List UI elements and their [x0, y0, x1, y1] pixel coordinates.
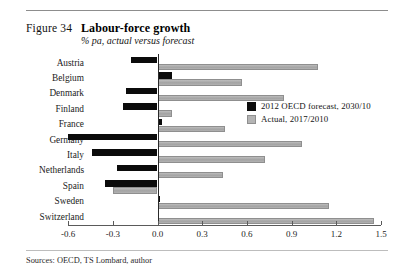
bar-netherlands-2012-oecd-forecast: [117, 165, 157, 171]
bar-austria-actual: [158, 64, 319, 70]
x-axis-line: [68, 225, 381, 226]
bar-denmark-2012-oecd-forecast: [126, 88, 157, 94]
category-label-sweden: Sweden: [12, 196, 84, 206]
x-tick-label-0: -0.6: [48, 229, 88, 239]
source-note: Sources: OECD, TS Lombard, author: [26, 256, 152, 265]
bar-finland-2012-oecd-forecast: [123, 103, 157, 109]
zero-axis-line: [158, 54, 159, 225]
x-tick-7: [381, 221, 382, 225]
x-tick-2: [158, 221, 159, 225]
x-tick-4: [247, 221, 248, 225]
x-tick-0: [68, 221, 69, 225]
chart-plot-area: AustriaBelgiumDenmarkFinlandFranceGerman…: [0, 0, 404, 276]
category-label-spain: Spain: [12, 181, 84, 191]
x-tick-label-5: 0.9: [272, 229, 312, 239]
x-tick-label-7: 1.5: [361, 229, 401, 239]
x-tick-3: [202, 221, 203, 225]
legend-item-actual: Actual, 2017/2010: [247, 114, 371, 124]
category-label-france: France: [12, 119, 84, 129]
legend-swatch-actual-icon: [247, 115, 256, 124]
bar-sweden-actual: [158, 203, 329, 209]
bar-italy-actual: [158, 156, 265, 162]
bar-france-actual: [158, 126, 225, 132]
figure-container: Figure 34 Labour-force growth % pa, actu…: [0, 0, 404, 276]
x-tick-1: [113, 221, 114, 225]
legend-label-actual: Actual, 2017/2010: [261, 114, 328, 124]
bar-spain-actual: [113, 187, 158, 193]
category-label-denmark: Denmark: [12, 88, 84, 98]
bar-germany-2012-oecd-forecast: [68, 134, 157, 140]
category-label-italy: Italy: [12, 150, 84, 160]
category-label-switzerland: Switzerland: [12, 212, 84, 222]
legend-swatch-forecast-icon: [247, 102, 256, 111]
x-tick-label-3: 0.3: [182, 229, 222, 239]
bar-austria-2012-oecd-forecast: [131, 57, 158, 63]
bar-belgium-2012-oecd-forecast: [158, 72, 173, 78]
x-tick-label-4: 0.6: [227, 229, 267, 239]
bar-italy-2012-oecd-forecast: [92, 149, 158, 155]
legend-label-forecast: 2012 OECD forecast, 2030/10: [261, 101, 371, 111]
category-label-finland: Finland: [12, 104, 84, 114]
bottom-divider: [26, 250, 388, 251]
bar-germany-actual: [158, 141, 303, 147]
legend-item-forecast: 2012 OECD forecast, 2030/10: [247, 101, 371, 111]
bar-belgium-actual: [158, 79, 243, 85]
category-label-austria: Austria: [12, 58, 84, 68]
bar-netherlands-actual: [158, 172, 224, 178]
category-label-belgium: Belgium: [12, 73, 84, 83]
bar-switzerland-actual: [158, 218, 374, 224]
x-tick-6: [336, 221, 337, 225]
chart-legend: 2012 OECD forecast, 2030/10 Actual, 2017…: [247, 101, 371, 127]
x-tick-label-2: 0.0: [138, 229, 178, 239]
bar-spain-2012-oecd-forecast: [105, 180, 157, 186]
x-tick-label-6: 1.2: [316, 229, 356, 239]
x-tick-label-1: -0.3: [93, 229, 133, 239]
x-tick-5: [292, 221, 293, 225]
bar-finland-actual: [158, 110, 173, 116]
category-label-netherlands: Netherlands: [12, 165, 84, 175]
